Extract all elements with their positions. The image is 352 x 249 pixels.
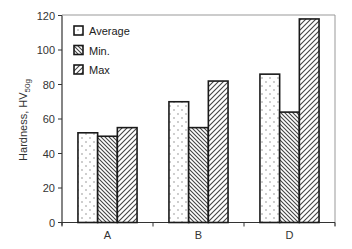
legend-swatch <box>74 26 83 35</box>
bar-A-max <box>117 128 137 223</box>
bar-D-average <box>260 74 280 222</box>
legend-swatch <box>74 46 83 55</box>
bar-D-max <box>299 19 319 223</box>
x-category-label: B <box>195 229 202 241</box>
y-axis: 020406080100120 <box>37 10 62 229</box>
hardness-bar-chart: 020406080100120 ABD AverageMin.Max Hardn… <box>0 0 352 249</box>
legend-label: Average <box>89 25 130 37</box>
bar-A-min <box>98 136 118 222</box>
x-category-label: A <box>104 229 112 241</box>
y-tick-label: 0 <box>49 217 55 229</box>
x-category-label: D <box>286 229 294 241</box>
y-tick-label: 80 <box>43 79 55 91</box>
bars <box>78 19 319 223</box>
x-axis: ABD <box>58 223 335 241</box>
bar-A-average <box>78 133 98 223</box>
bar-D-min <box>280 112 300 222</box>
legend-label: Max <box>89 64 110 76</box>
y-tick-label: 40 <box>43 148 55 160</box>
y-tick-label: 120 <box>37 10 55 22</box>
legend: AverageMin.Max <box>74 25 130 76</box>
y-tick-label: 60 <box>43 113 55 125</box>
bar-B-min <box>189 128 209 223</box>
bar-B-average <box>169 102 189 223</box>
legend-swatch <box>74 65 83 74</box>
bar-B-max <box>208 81 228 222</box>
legend-label: Min. <box>89 45 110 57</box>
y-tick-label: 20 <box>43 182 55 194</box>
y-tick-label: 100 <box>37 44 55 56</box>
y-axis-title: Hardness, HV50g <box>17 79 32 161</box>
